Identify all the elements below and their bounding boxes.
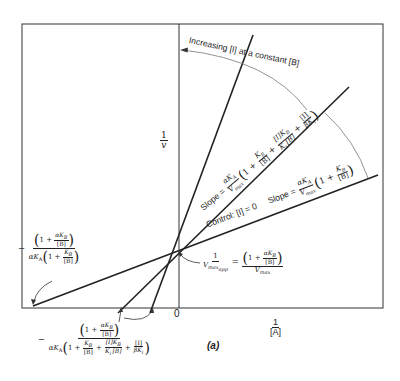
inhibited-intercept-plus1: + xyxy=(96,344,102,352)
control-intercept-pointer xyxy=(34,281,52,302)
control-intercept-sign: − xyxy=(18,243,25,253)
control-intercept-den-inner-num-sub: B xyxy=(69,251,73,257)
inhibited-intercept-num-term: 1 + xyxy=(85,326,98,334)
inhibited-intercept-d3-den: Ki [B] xyxy=(104,348,122,356)
vmax-rhs-den: Vmax xyxy=(254,267,272,276)
control-intercept-num-inner-num-sub: B xyxy=(64,234,68,240)
inhibited-intercept-plus2: + xyxy=(125,344,131,352)
vmax-app-formula: 1Vmaxapp = (1 + αKB[B])Vmax xyxy=(202,250,283,275)
inhibited-intercept-sign: − xyxy=(38,334,45,344)
control-intercept-arrowhead-icon xyxy=(31,299,36,305)
vmax-rhs-inner-den: [B] xyxy=(264,259,275,265)
vmax-lhs-num: 1 xyxy=(212,253,218,261)
vmax-pointer xyxy=(180,254,200,263)
inhibited-intercept-d3-den-sub: i xyxy=(110,350,112,356)
inhibited-intercept-d3-num-sub: B xyxy=(117,341,121,347)
vmax-eq: = xyxy=(232,257,239,267)
inhibited-intercept-formula: − (1 + αKB[B])αKA(1 + KB[B] + [I]KBKi [B… xyxy=(38,322,151,357)
vmax-lhs-den-sub-main: max xyxy=(208,264,219,270)
y-axis-label: 1v xyxy=(160,131,168,151)
control-intercept-den: αKA(1 + KB[B]) xyxy=(28,249,80,265)
paren-close: ) xyxy=(74,248,79,264)
paren-close: ) xyxy=(114,322,119,338)
vmax-lhs-den-subsub: app xyxy=(219,266,228,272)
inhibited-intercept-den-term: 1 + xyxy=(68,344,81,352)
inhibited-intercept-den-prefix: αK xyxy=(49,344,59,352)
inhibited-intercept-d3-num-main: [I]K xyxy=(106,338,118,345)
paren-close: ) xyxy=(277,250,282,266)
inhibited-intercept-pointer-2 xyxy=(124,311,152,319)
inhibited-intercept-d2-den: [B] xyxy=(83,349,94,355)
control-intercept-num-inner-num-main: αK xyxy=(55,231,64,238)
control-intercept-den-inner-den: [B] xyxy=(63,258,74,264)
control-intercept-num: (1 + αKB[B]) xyxy=(33,232,75,249)
paren-close: ) xyxy=(69,232,74,248)
vmax-rhs-den-sub: max xyxy=(260,269,271,275)
vmax-rhs-inner-num-sub: B xyxy=(272,252,276,258)
vmax-lhs-den: Vmaxapp xyxy=(202,262,229,273)
origin-label: 0 xyxy=(174,309,180,319)
vmax-rhs-num: (1 + αKB[B]) xyxy=(242,250,284,267)
vmax-rhs-term: 1 + xyxy=(248,254,261,262)
vmax-lhs-den-sub: maxapp xyxy=(208,264,228,270)
paren-close: ) xyxy=(144,339,149,355)
x-axis-label: 1[A] xyxy=(269,318,282,338)
inhibited-intercept-num: (1 + αKB[B]) xyxy=(78,322,120,339)
x-label-den: [A] xyxy=(269,328,282,337)
panel-label: (a) xyxy=(207,341,219,351)
control-intercept-den-prefix: αK xyxy=(29,252,39,260)
inhibited-intercept-num-inner-num-main: αK xyxy=(101,321,110,328)
control-intercept-num-term: 1 + xyxy=(40,236,53,244)
inhibited-intercept-num-inner-num-sub: B xyxy=(109,324,113,330)
control-intercept-formula: − (1 + αKB[B])αKA(1 + KB[B]) xyxy=(18,232,80,264)
inhibited-intercept-den: αKA(1 + KB[B] + [I]KBKi [B] + [I]βKi) xyxy=(48,339,151,357)
y-label-den: v xyxy=(160,141,167,150)
control-slope-term1: 1 + xyxy=(318,171,336,186)
control-intercept-den-term: 1 + xyxy=(48,252,61,260)
inhibited-intercept-d3-den-rest: [B] xyxy=(112,347,121,354)
inhibited-intercept-d4-den-main: βK xyxy=(134,346,142,353)
arrowhead-icon xyxy=(180,48,188,53)
inhibited-intercept-d2-num-sub: B xyxy=(89,342,93,348)
inhibited-intercept-d4-den: βKi xyxy=(133,347,145,355)
